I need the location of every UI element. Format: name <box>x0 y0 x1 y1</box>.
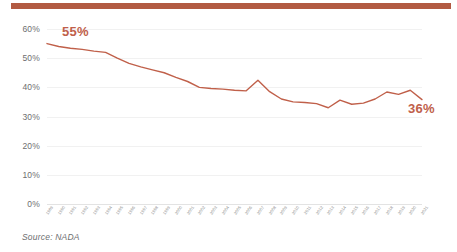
x-tick-label-2010: 2010 <box>291 205 300 216</box>
x-axis: 1989199019911992199319941995199619971998… <box>47 205 422 229</box>
x-tick-label-2005: 2005 <box>232 205 241 216</box>
chart-figure: 60% 50% 40% 30% 20% 10% 0% 55% 36% 19891… <box>0 0 457 252</box>
x-tick-label-2016: 2016 <box>361 205 370 216</box>
x-tick-label-1997: 1997 <box>138 205 147 216</box>
x-tick-label-1996: 1996 <box>127 205 136 216</box>
end-value-annotation: 36% <box>408 101 435 116</box>
x-tick-label-1992: 1992 <box>80 205 89 216</box>
x-tick-label-2017: 2017 <box>373 205 382 216</box>
x-tick-label-2018: 2018 <box>384 205 393 216</box>
x-tick-label-1999: 1999 <box>162 205 171 216</box>
x-tick-label-2000: 2000 <box>174 205 183 216</box>
x-tick-label-2009: 2009 <box>279 205 288 216</box>
x-tick-label-2019: 2019 <box>396 205 405 216</box>
x-tick-label-2006: 2006 <box>244 205 253 216</box>
x-tick-label-1989: 1989 <box>45 205 54 216</box>
x-tick-label-2013: 2013 <box>326 205 335 216</box>
x-tick-label-2003: 2003 <box>209 205 218 216</box>
x-tick-label-2014: 2014 <box>338 205 347 216</box>
x-tick-label-2011: 2011 <box>303 205 312 215</box>
x-tick-label-1994: 1994 <box>103 205 112 216</box>
x-tick-label-2015: 2015 <box>349 205 358 216</box>
x-tick-label-1998: 1998 <box>150 205 159 216</box>
x-tick-label-2008: 2008 <box>267 205 276 216</box>
x-tick-label-2020: 2020 <box>408 205 417 216</box>
x-tick-label-2002: 2002 <box>197 205 206 216</box>
start-value-annotation: 55% <box>62 24 89 39</box>
x-tick-label-1993: 1993 <box>92 205 101 216</box>
x-tick-label-2001: 2001 <box>185 205 194 216</box>
x-tick-label-1995: 1995 <box>115 205 124 216</box>
x-tick-label-2012: 2012 <box>314 205 323 216</box>
x-tick-label-2004: 2004 <box>220 205 229 216</box>
x-tick-label-2007: 2007 <box>256 205 265 216</box>
x-tick-label-1991: 1991 <box>68 205 77 216</box>
data-series-line <box>47 44 422 108</box>
source-note: Source: NADA <box>22 232 80 242</box>
x-tick-label-1990: 1990 <box>56 205 65 216</box>
